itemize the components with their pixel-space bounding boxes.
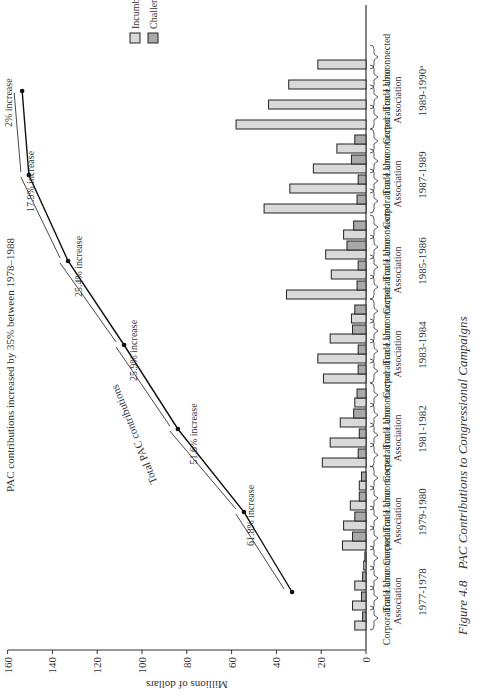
y-tick-label: 20 <box>315 657 327 669</box>
total-pac-point <box>66 259 71 264</box>
bar-incumbent <box>340 418 366 427</box>
total-pac-point <box>122 343 127 348</box>
bar-incumbent <box>355 398 366 407</box>
bar-incumbent <box>318 354 366 363</box>
bar-challenger <box>353 325 366 334</box>
bar-challenger <box>365 552 366 561</box>
bar-incumbent <box>342 541 366 550</box>
bar-incumbent <box>264 204 366 213</box>
period-label: 1983-1984 <box>416 321 428 369</box>
bar-challenger <box>354 409 366 418</box>
bar-challenger <box>359 492 366 501</box>
increase-label: 2% increase <box>3 78 14 127</box>
y-tick-label: 120 <box>91 657 103 674</box>
category-label: Association <box>392 160 403 207</box>
bar-incumbent <box>337 144 366 153</box>
bar-incumbent <box>355 581 366 590</box>
bar-incumbent <box>322 458 366 467</box>
y-tick-label: 160 <box>2 657 14 674</box>
bar-challenger <box>355 512 366 521</box>
bar-challenger <box>359 429 366 438</box>
increase-label: 25.9% increase <box>128 319 139 381</box>
increase-brace <box>14 93 21 172</box>
y-tick-label: 100 <box>136 657 148 674</box>
period-label: 1979-1980 <box>416 488 428 536</box>
bar-incumbent <box>318 60 366 69</box>
category-label: Association <box>392 414 403 461</box>
y-axis-title: Millions of dollars <box>146 679 228 691</box>
bar-incumbent <box>286 290 366 299</box>
bar-incumbent <box>313 164 366 173</box>
y-tick-label: 40 <box>270 657 282 669</box>
bar-challenger <box>354 221 366 230</box>
increase-brace <box>170 431 236 509</box>
legend-label: Incumbent <box>130 0 141 29</box>
category-label: Association <box>392 330 403 377</box>
bar-challenger <box>357 389 366 398</box>
period-label: 1985-1986 <box>416 237 428 285</box>
period-label: 1989-1990ᵃ <box>416 66 428 117</box>
period-label: 1977-1978 <box>416 568 428 616</box>
category-label: Association <box>392 577 403 624</box>
bar-incumbent <box>351 314 366 323</box>
bar-incumbent <box>344 230 366 239</box>
line-label: Total PAC contributions <box>108 383 159 486</box>
bar-incumbent <box>350 501 366 510</box>
legend-label: Challenger <box>148 0 159 29</box>
bar-challenger <box>362 472 366 481</box>
bar-incumbent <box>289 80 366 89</box>
period-label: 1987-1989 <box>416 151 428 199</box>
bar-challenger <box>362 592 366 601</box>
total-pac-point <box>20 89 25 94</box>
increase-brace <box>236 514 284 589</box>
category-label: Association <box>392 497 403 544</box>
category-label: Association <box>392 246 403 293</box>
bar-challenger <box>357 281 366 290</box>
bar-challenger <box>358 261 366 270</box>
category-label: Unconnected <box>381 34 392 87</box>
bar-incumbent <box>359 481 366 490</box>
bar-challenger <box>355 135 366 144</box>
y-tick-label: 0 <box>360 657 372 663</box>
total-pac-point <box>290 590 295 595</box>
pac-chart: 020406080100120140160Millions of dollars… <box>0 0 479 695</box>
increase-label: 17.9% increase <box>25 150 36 212</box>
bar-incumbent <box>290 184 366 193</box>
y-tick-label: 140 <box>46 657 58 674</box>
figure-caption: Figure 4.8 PAC Contributions to Congress… <box>455 309 471 635</box>
bar-challenger <box>363 572 366 581</box>
figure-title: PAC Contributions to Congressional Campa… <box>455 317 470 570</box>
category-label: Association <box>392 76 403 123</box>
bar-challenger <box>347 241 366 250</box>
bar-incumbent <box>326 250 366 259</box>
bar-incumbent <box>353 601 366 610</box>
bar-incumbent <box>364 561 366 570</box>
increase-label: 25.4% increase <box>73 235 84 297</box>
bar-incumbent <box>323 374 366 383</box>
bar-incumbent <box>269 100 366 109</box>
bar-challenger <box>358 449 366 458</box>
increase-brace <box>60 263 116 342</box>
bar-incumbent <box>355 621 366 630</box>
bar-incumbent <box>330 438 366 447</box>
bar-challenger <box>363 612 366 621</box>
bar-incumbent <box>331 270 366 279</box>
bar-challenger <box>358 175 366 184</box>
top-annotation: PAC contributions increased by 35% betwe… <box>4 238 16 492</box>
increase-label: 51.6% increase <box>188 403 199 465</box>
bar-incumbent <box>344 521 366 530</box>
bar-incumbent <box>330 334 366 343</box>
legend-swatch-challenger <box>148 33 158 43</box>
bar-challenger <box>353 532 366 541</box>
rotated-figure-page: 020406080100120140160Millions of dollars… <box>0 0 479 695</box>
bar-incumbent <box>236 120 366 129</box>
bar-challenger <box>358 345 366 354</box>
bar-challenger <box>358 365 366 374</box>
period-label: 1981-1982 <box>416 405 428 453</box>
bar-challenger <box>351 155 366 164</box>
y-tick-label: 60 <box>226 657 238 669</box>
total-pac-point <box>176 427 181 432</box>
bar-challenger <box>355 305 366 314</box>
y-tick-label: 80 <box>181 657 193 669</box>
legend-swatch-incumbent <box>130 33 140 43</box>
